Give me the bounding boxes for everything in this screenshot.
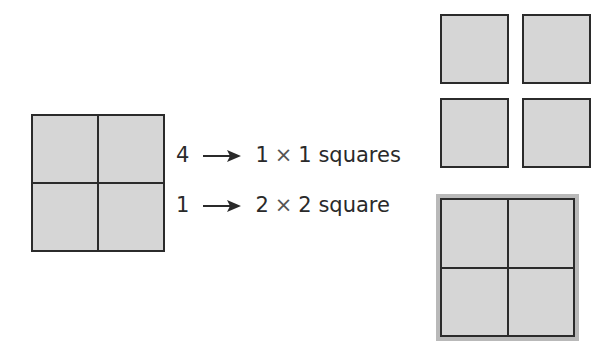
noun-label: square xyxy=(318,195,390,216)
row-label-unit-squares: 41×1 squares xyxy=(176,145,401,166)
unit-square-top-right xyxy=(522,14,591,84)
size-b: 2 xyxy=(298,195,311,216)
size-a: 2 xyxy=(255,195,268,216)
right-arrow-icon xyxy=(203,199,241,213)
size-b: 1 xyxy=(298,145,311,166)
right-arrow-icon xyxy=(203,149,241,163)
unit-square-bottom-right xyxy=(522,98,591,168)
grid-horizontal-divider xyxy=(33,182,163,184)
row-label-big-square: 12×2 square xyxy=(176,195,390,216)
size-a: 1 xyxy=(255,145,268,166)
count-value: 4 xyxy=(176,145,189,166)
grid-horizontal-divider xyxy=(442,267,573,269)
unit-square-top-left xyxy=(440,14,509,84)
times-sign: × xyxy=(275,145,293,166)
unit-square-bottom-left xyxy=(440,98,509,168)
noun-label: squares xyxy=(318,145,400,166)
source-2x2-grid xyxy=(31,114,165,252)
times-sign: × xyxy=(275,195,293,216)
big-2x2-square xyxy=(440,198,575,337)
count-value: 1 xyxy=(176,195,189,216)
